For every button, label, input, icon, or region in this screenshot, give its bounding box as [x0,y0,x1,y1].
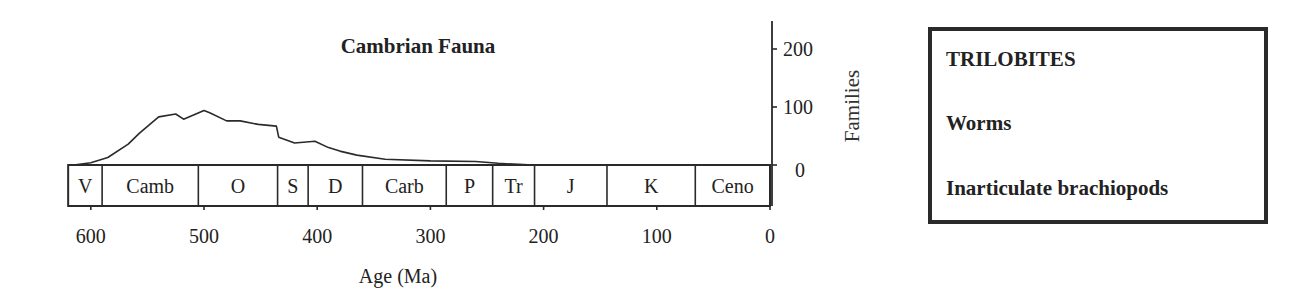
period-label-j: J [567,175,575,197]
x-tick-label: 500 [189,225,219,247]
chart-title-text: Cambrian Fauna [341,34,496,58]
period-label-ceno: Ceno [712,175,754,197]
geologic-period-bar: VCambOSDCarbPTrJKCeno [68,165,770,206]
x-axis: 6005004003002001000Age (Ma) [76,206,775,288]
x-tick-label: 200 [529,225,559,247]
diversity-line [74,111,533,166]
y-tick-label: 200 [783,38,813,60]
chart-title: Cambrian Fauna [341,34,496,58]
period-label-k: K [644,175,659,197]
x-tick-label: 100 [642,225,672,247]
y-tick-label: 0 [795,159,805,181]
period-label-camb: Camb [126,175,174,197]
period-label-o: O [231,175,245,197]
x-tick-label: 300 [415,225,445,247]
legend-item-trilobites: TRILOBITES [946,47,1076,72]
period-label-v: V [78,175,93,197]
y-axis: 0100200Families [772,21,864,206]
legend-item-worms: Worms [946,111,1011,136]
x-tick-label: 400 [302,225,332,247]
period-label-tr: Tr [505,175,524,197]
period-label-d: D [328,175,342,197]
x-axis-label: Age (Ma) [359,265,437,288]
legend-box: TRILOBITES Worms Inarticulate brachiopod… [928,27,1268,224]
y-axis-label: Families [840,70,864,142]
period-label-s: S [287,175,298,197]
legend-item-inarticulate-brachiopods: Inarticulate brachiopods [946,176,1168,201]
x-tick-label: 600 [76,225,106,247]
x-tick-label: 0 [765,225,775,247]
period-label-p: P [464,175,475,197]
period-label-carb: Carb [385,175,424,197]
y-tick-label: 100 [783,96,813,118]
diversity-curve [74,111,533,166]
